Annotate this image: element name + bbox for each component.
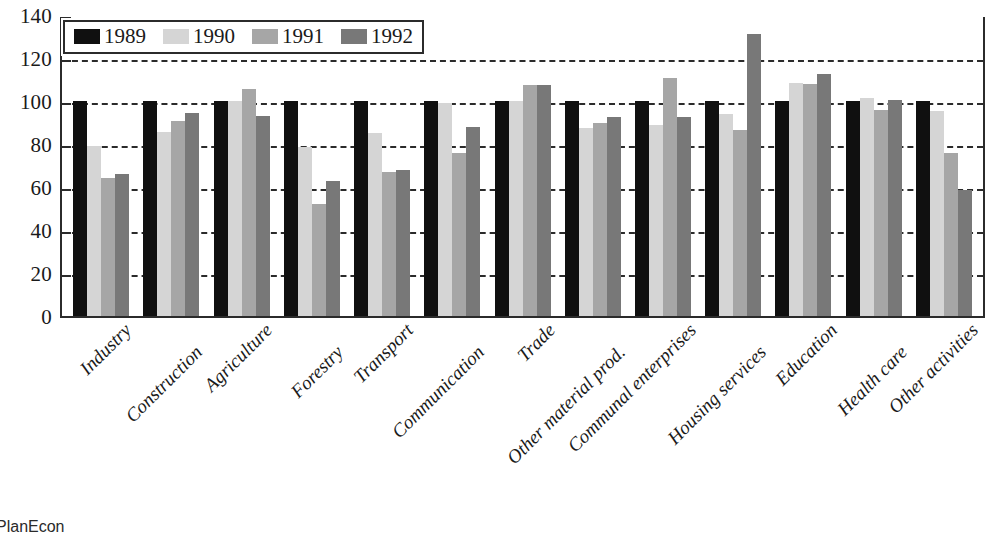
x-axis-label: Housing services	[664, 342, 770, 448]
x-axis-label: Trade	[513, 320, 558, 365]
bar	[214, 101, 228, 316]
bar	[143, 101, 157, 316]
bar	[930, 111, 944, 316]
bar-group	[206, 17, 276, 316]
bar-group	[487, 17, 557, 316]
bar	[312, 204, 326, 316]
axis-tick-mark	[62, 146, 71, 148]
plot-area	[60, 17, 985, 318]
axis-tick-mark	[62, 103, 71, 105]
y-tick-label: 0	[0, 307, 52, 328]
x-axis-label: Agriculture	[201, 320, 276, 395]
bar	[185, 113, 199, 316]
bar	[803, 84, 817, 316]
bar	[607, 117, 621, 316]
y-tick-label: 60	[0, 178, 52, 199]
legend: 1989199019911992	[63, 20, 424, 54]
bar	[888, 100, 902, 316]
legend-label: 1989	[104, 26, 146, 47]
y-tick-label: 100	[0, 92, 52, 113]
x-axis-label: Construction	[122, 342, 206, 426]
bar	[705, 101, 719, 316]
bar-group	[558, 17, 628, 316]
bar	[101, 178, 115, 316]
x-axis-label: Education	[771, 320, 840, 389]
bar	[663, 78, 677, 316]
bar	[677, 117, 691, 316]
x-axis-label: Transport	[350, 320, 416, 386]
axis-tick-mark	[62, 17, 71, 19]
bar	[326, 181, 340, 316]
bar-group	[768, 17, 838, 316]
source-caption: PlanEcon	[0, 518, 65, 536]
x-axis-label: Forestry	[287, 342, 346, 401]
y-tick-label: 140	[0, 6, 52, 27]
bar-group	[909, 17, 979, 316]
y-tick-label: 40	[0, 221, 52, 242]
bar	[424, 101, 438, 316]
legend-swatch-icon	[74, 29, 100, 44]
x-axis-label: Industry	[76, 320, 134, 378]
bar	[382, 172, 396, 316]
x-axis-labels: IndustryConstructionAgricultureForestryT…	[60, 320, 985, 500]
legend-item: 1992	[341, 26, 413, 47]
bar	[916, 101, 930, 316]
bar-group	[277, 17, 347, 316]
legend-item: 1989	[74, 26, 146, 47]
y-axis-tick-marks	[62, 17, 72, 316]
bar	[775, 101, 789, 316]
bar	[565, 101, 579, 316]
y-tick-label: 120	[0, 49, 52, 70]
bar	[228, 101, 242, 316]
bar	[579, 128, 593, 316]
bar	[817, 74, 831, 316]
bar	[733, 130, 747, 316]
bar	[874, 110, 888, 316]
y-axis: 140120100806040200	[0, 0, 52, 330]
bar	[944, 153, 958, 316]
bar	[171, 121, 185, 316]
bar	[438, 103, 452, 316]
bar	[635, 101, 649, 316]
bar-group	[136, 17, 206, 316]
bar	[242, 89, 256, 316]
y-tick-label: 20	[0, 264, 52, 285]
bar-group	[347, 17, 417, 316]
bar-group	[628, 17, 698, 316]
bar	[747, 34, 761, 316]
bar	[466, 127, 480, 316]
bar	[523, 85, 537, 316]
y-tick-label: 80	[0, 135, 52, 156]
bar	[368, 133, 382, 316]
bar	[115, 174, 129, 316]
legend-swatch-icon	[252, 29, 278, 44]
bar	[452, 153, 466, 316]
bar	[719, 114, 733, 316]
bar	[284, 101, 298, 316]
x-axis-label: Communication	[388, 342, 487, 441]
bar-chart: 140120100806040200 1989199019911992 Indu…	[0, 0, 995, 548]
legend-swatch-icon	[341, 29, 367, 44]
bars-layer	[62, 17, 983, 316]
bar	[537, 85, 551, 316]
bar-group	[839, 17, 909, 316]
legend-item: 1990	[163, 26, 235, 47]
legend-label: 1990	[193, 26, 235, 47]
bar	[846, 101, 860, 316]
bar	[157, 132, 171, 316]
bar	[789, 83, 803, 316]
bar	[649, 125, 663, 316]
bar	[87, 146, 101, 316]
legend-label: 1991	[282, 26, 324, 47]
bar	[860, 98, 874, 316]
legend-item: 1991	[252, 26, 324, 47]
bar	[396, 170, 410, 316]
legend-swatch-icon	[163, 29, 189, 44]
bar	[509, 101, 523, 316]
bar	[958, 190, 972, 316]
axis-tick-mark	[62, 232, 71, 234]
axis-tick-mark	[62, 275, 71, 277]
bar	[73, 101, 87, 316]
bar-group	[66, 17, 136, 316]
axis-tick-mark	[62, 189, 71, 191]
